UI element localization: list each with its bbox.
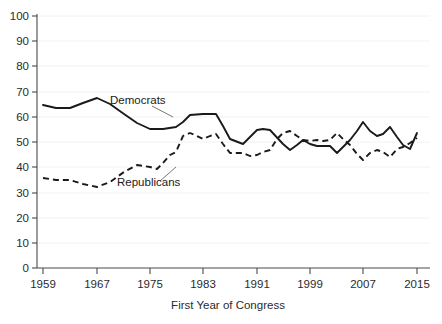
x-tick-label-1983: 1983 — [190, 278, 216, 290]
x-tick-label-1975: 1975 — [137, 278, 163, 290]
democrats-leader-line — [152, 106, 173, 117]
x-axis-tick-labels: 1959 1967 1975 1983 1991 1999 2007 2015 — [30, 278, 430, 290]
y-tick-label-20: 20 — [16, 212, 29, 224]
series-label-democrats: Democrats — [110, 94, 166, 106]
series-label-republicans: Republicans — [117, 176, 181, 188]
y-tick-label-0: 0 — [23, 262, 29, 274]
y-tick-label-70: 70 — [16, 86, 29, 98]
y-tick-label-50: 50 — [16, 136, 29, 148]
x-tick-label-1999: 1999 — [297, 278, 323, 290]
x-tick-label-2007: 2007 — [350, 278, 376, 290]
y-tick-label-100: 100 — [10, 10, 29, 22]
chart-container: 100 90 80 70 60 50 40 30 20 10 0 1959 19 — [0, 0, 442, 324]
y-axis-ticks — [32, 16, 37, 268]
x-axis-title: First Year of Congress — [171, 299, 285, 311]
x-tick-label-1959: 1959 — [30, 278, 56, 290]
x-tick-label-1967: 1967 — [84, 278, 110, 290]
y-tick-label-90: 90 — [16, 35, 29, 47]
y-tick-label-10: 10 — [16, 237, 29, 249]
y-tick-label-60: 60 — [16, 111, 29, 123]
y-tick-label-40: 40 — [16, 161, 29, 173]
y-axis-tick-labels: 100 90 80 70 60 50 40 30 20 10 0 — [10, 10, 29, 274]
y-tick-label-80: 80 — [16, 60, 29, 72]
line-chart: 100 90 80 70 60 50 40 30 20 10 0 1959 19 — [0, 0, 442, 324]
gridlines — [37, 16, 430, 243]
series-line-democrats — [43, 98, 417, 153]
y-tick-label-30: 30 — [16, 187, 29, 199]
x-tick-label-1991: 1991 — [244, 278, 270, 290]
x-tick-label-2015: 2015 — [404, 278, 430, 290]
x-axis-ticks — [43, 268, 417, 274]
